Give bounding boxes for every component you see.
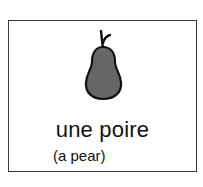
english-translation: (a pear) — [53, 147, 106, 164]
flashcard: une poire (a pear) — [8, 20, 197, 172]
pear-icon — [82, 27, 126, 103]
french-word: une poire — [9, 117, 196, 143]
